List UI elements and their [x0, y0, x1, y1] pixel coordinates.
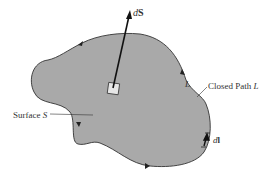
label-surface: Surface S	[13, 110, 47, 120]
closed-path-leader-line	[197, 87, 207, 97]
normal-vector-arrowhead-icon	[126, 10, 132, 19]
label-ds-symbol: S	[138, 7, 144, 18]
label-path-l: L	[185, 79, 190, 89]
label-dl: dl	[213, 135, 220, 145]
label-dl-symbol: l	[218, 135, 221, 145]
label-ds: dS	[133, 8, 144, 18]
label-surface-text: Surface	[13, 110, 43, 120]
label-closed-path-text: Closed Path	[208, 81, 254, 91]
label-closed-path: Closed Path L	[208, 81, 259, 91]
label-surface-symbol: S	[43, 110, 48, 120]
label-closed-path-symbol: L	[254, 81, 259, 91]
